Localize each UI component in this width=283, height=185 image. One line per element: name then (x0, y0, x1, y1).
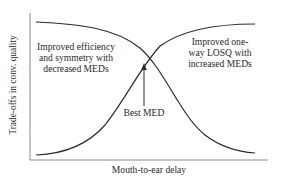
right-annotation-line: increased MEDs (180, 58, 260, 69)
left-annotation-line: Improved efficiency (31, 41, 121, 52)
left-annotation-line: and symmetry with (31, 52, 121, 63)
best-med-label: Best MED (114, 107, 174, 118)
left-annotation-line: decreased MEDs (31, 63, 121, 74)
left-annotation: Improved efficiency and symmetry with de… (31, 41, 121, 74)
right-annotation-line: way LOSQ with (180, 47, 260, 58)
right-annotation-line: Improved one- (180, 36, 260, 47)
right-annotation: Improved one- way LOSQ with increased ME… (180, 36, 260, 69)
tradeoff-diagram: Trade-offs in conv. quality Improved eff… (0, 0, 283, 185)
x-axis-label: Mouth-to-ear delay (89, 164, 209, 175)
y-axis-label: Trade-offs in conv. quality (8, 15, 18, 155)
